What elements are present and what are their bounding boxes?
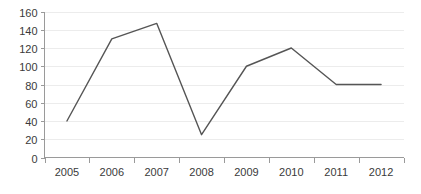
- y-axis-tick-label: 60: [25, 98, 37, 110]
- y-axis-ticks: [41, 13, 45, 159]
- x-axis-tick-label: 2005: [55, 166, 79, 178]
- x-axis-tick-label: 2008: [189, 166, 213, 178]
- y-axis-tick-label: 140: [19, 25, 37, 37]
- line-chart: 020406080100120140160 200520062007200820…: [0, 0, 421, 194]
- y-axis-tick-label: 100: [19, 61, 37, 73]
- gridlines: [45, 13, 404, 140]
- x-axis-tick-label: 2011: [324, 166, 348, 178]
- y-axis-tick-label: 160: [19, 7, 37, 19]
- data-series-line: [67, 23, 381, 134]
- x-axis-labels: 20052006200720082009201020112012: [55, 166, 394, 178]
- x-axis-tick-label: 2010: [279, 166, 303, 178]
- y-axis-tick-label: 20: [25, 134, 37, 146]
- y-axis-tick-label: 80: [25, 80, 37, 92]
- y-axis-labels: 020406080100120140160: [19, 7, 37, 165]
- y-axis-tick-label: 40: [25, 116, 37, 128]
- x-axis-ticks: [46, 158, 405, 163]
- x-axis-tick-label: 2009: [234, 166, 258, 178]
- x-axis-tick-label: 2012: [369, 166, 393, 178]
- y-axis-tick-label: 0: [31, 153, 37, 165]
- y-axis-tick-label: 120: [19, 43, 37, 55]
- chart-canvas: 020406080100120140160 200520062007200820…: [0, 0, 421, 194]
- x-axis-tick-label: 2006: [100, 166, 124, 178]
- x-axis-tick-label: 2007: [144, 166, 168, 178]
